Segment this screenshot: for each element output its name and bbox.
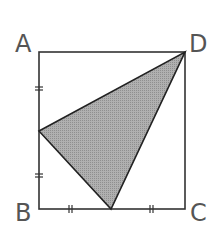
label-a: A — [15, 30, 32, 58]
label-c: C — [190, 199, 207, 227]
label-d: D — [189, 30, 207, 58]
geometry-diagram: A D B C — [0, 0, 221, 233]
shaded-triangle — [39, 52, 185, 209]
label-b: B — [15, 199, 31, 227]
